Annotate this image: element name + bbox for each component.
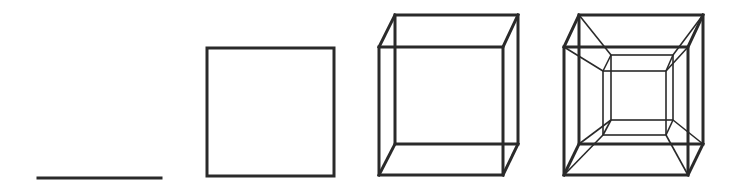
- tesseract-figure: [564, 15, 703, 175]
- square-figure: [207, 48, 334, 176]
- dimension-diagram: [0, 0, 741, 192]
- cube-figure: [379, 15, 518, 175]
